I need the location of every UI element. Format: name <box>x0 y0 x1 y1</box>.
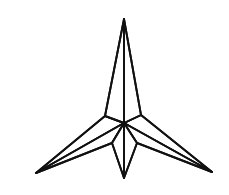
figure-canvas: A wireframe polyhedral star with three l… <box>0 0 229 195</box>
star-wireframe-drawing <box>0 0 229 195</box>
